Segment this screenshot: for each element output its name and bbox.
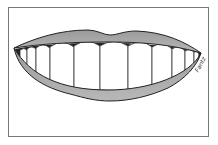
mouth-illustration [0,0,218,145]
